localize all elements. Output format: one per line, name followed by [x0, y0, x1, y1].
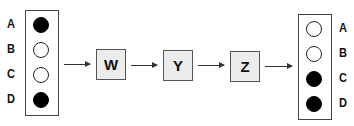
- output-panel: [298, 14, 332, 120]
- input-dot-a: [33, 17, 49, 33]
- arrow-right-icon: [198, 65, 224, 66]
- arrow-right-icon: [64, 64, 90, 65]
- output-label-c: C: [338, 70, 348, 86]
- input-label-c: C: [6, 66, 16, 82]
- output-label-a: A: [338, 20, 348, 36]
- arrow-right-icon: [265, 66, 292, 67]
- output-label-d: D: [338, 95, 348, 111]
- stage-w: W: [96, 49, 126, 80]
- input-dot-b: [33, 42, 49, 58]
- input-label-b: B: [6, 41, 16, 57]
- stage-y-label: Y: [173, 57, 183, 74]
- output-dot-a: [306, 21, 322, 37]
- arrow-right-icon: [131, 65, 157, 66]
- stage-y: Y: [163, 50, 193, 81]
- output-dot-b: [306, 46, 322, 62]
- input-label-d: D: [6, 91, 16, 107]
- input-dot-d: [33, 92, 49, 108]
- stage-z-label: Z: [240, 58, 249, 75]
- output-dot-d: [306, 96, 322, 112]
- input-label-a: A: [6, 16, 16, 32]
- input-panel: [25, 10, 59, 116]
- stage-z: Z: [230, 51, 260, 82]
- output-label-b: B: [338, 45, 348, 61]
- input-dot-c: [33, 67, 49, 83]
- stage-w-label: W: [104, 56, 118, 73]
- output-dot-c: [306, 71, 322, 87]
